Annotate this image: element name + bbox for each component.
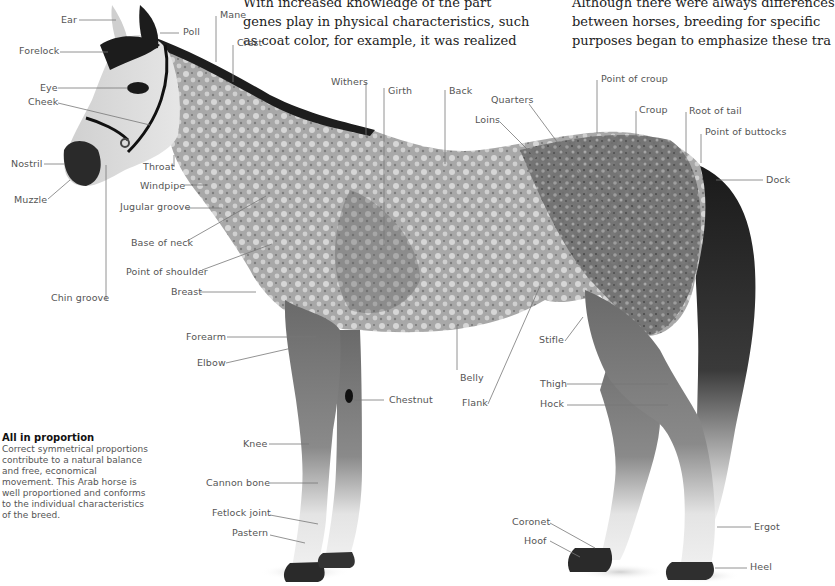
label-belly: Belly [460,372,484,383]
label-croup: Croup [639,104,668,115]
label-elbow: Elbow [197,357,226,368]
label-breast: Breast [171,286,202,297]
label-cannon-bone: Cannon bone [206,477,270,488]
label-heel: Heel [750,561,772,572]
caption-title: All in proportion [2,432,202,444]
label-nostril: Nostril [11,158,42,169]
caption-box: All in proportion Correct symmetrical pr… [2,432,202,521]
caption-line: Correct symmetrical proportions [2,444,202,455]
label-ear: Ear [61,14,77,25]
label-chestnut: Chestnut [389,394,433,405]
label-thigh: Thigh [540,378,567,389]
label-quarters: Quarters [491,94,533,105]
label-girth: Girth [388,85,412,96]
label-pastern: Pastern [232,527,268,538]
label-cheek: Cheek [28,96,58,107]
label-point-of-croup: Point of croup [601,73,668,84]
label-poll: Poll [183,26,200,37]
label-mane: Mane [220,9,246,20]
caption-line: of the breed. [2,510,202,521]
label-ergot: Ergot [754,521,780,532]
label-jugular-groove: Jugular groove [120,201,190,212]
label-fetlock-joint: Fetlock joint [212,507,271,518]
caption-line: well proportioned and conforms [2,488,202,499]
label-forelock: Forelock [19,45,59,56]
label-hoof: Hoof [524,535,547,546]
label-point-of-shoulder: Point of shoulder [126,266,208,277]
label-back: Back [449,85,472,96]
caption-line: and free, economical [2,466,202,477]
label-hock: Hock [540,398,564,409]
caption-line: movement. This Arab horse is [2,477,202,488]
label-muzzle: Muzzle [14,194,47,205]
label-withers: Withers [331,76,368,87]
label-crest: Crest [237,37,262,48]
label-coronet: Coronet [512,516,550,527]
label-chin-groove: Chin groove [51,292,109,303]
label-forearm: Forearm [186,331,226,342]
label-eye: Eye [40,82,58,93]
label-flank: Flank [462,397,488,408]
label-knee: Knee [243,438,267,449]
label-stifle: Stifle [539,334,564,345]
label-loins: Loins [475,114,500,125]
label-base-of-neck: Base of neck [131,237,193,248]
label-point-of-buttocks: Point of buttocks [705,126,786,137]
label-throat: Throat [143,161,174,172]
label-windpipe: Windpipe [140,180,185,191]
label-dock: Dock [766,174,790,185]
caption-line: to the individual characteristics [2,499,202,510]
label-root-of-tail: Root of tail [689,105,742,116]
caption-line: contribute to a natural balance [2,455,202,466]
